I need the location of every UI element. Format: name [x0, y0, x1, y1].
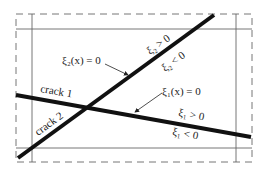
- xi1-positive-label: ξ₁ > 0: [177, 106, 205, 123]
- crack-1-label: crack 1: [40, 82, 74, 99]
- crack-level-set-diagram: ξ₂(x) = 0 ξ₁(x) = 0 ξ₂ > 0 ξ₂ < 0 ξ₁ > 0…: [0, 0, 263, 169]
- xi2-zero-label: ξ₂(x) = 0: [62, 54, 101, 67]
- xi1-zero-label: ξ₁(x) = 0: [162, 85, 201, 98]
- xi2-arrow: [105, 64, 128, 75]
- xi1-arrow: [135, 93, 162, 112]
